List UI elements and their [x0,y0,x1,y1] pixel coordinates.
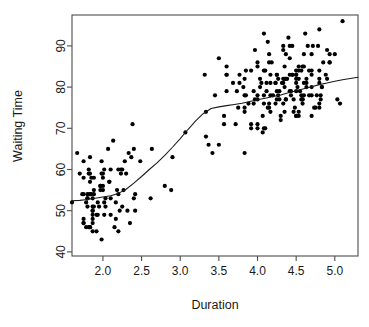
data-point [282,85,286,89]
data-point [102,213,106,217]
data-point [255,122,259,126]
data-point [333,52,337,56]
data-point [316,44,320,48]
data-point [91,217,95,221]
data-point [249,122,253,126]
data-point [276,77,280,81]
data-point [294,73,298,77]
data-point [295,85,299,89]
data-point [319,93,323,97]
data-point [235,89,239,93]
data-point [319,97,323,101]
data-point [169,188,173,192]
data-point [106,147,110,151]
data-point [255,64,259,68]
data-point [89,176,93,180]
data-point [91,213,95,217]
data-point [237,73,241,77]
x-tick-label: 4.5 [288,264,305,278]
data-point [264,81,268,85]
data-point [163,184,167,188]
data-point [127,151,131,155]
data-point [81,217,85,221]
data-point [317,69,321,73]
data-point [293,106,297,110]
data-point [317,101,321,105]
data-point [123,159,127,163]
data-point [100,237,104,241]
data-point [213,93,217,97]
data-point [281,81,285,85]
data-point [88,180,92,184]
data-point [132,196,136,200]
data-point [284,52,288,56]
data-point [243,151,247,155]
data-point [243,110,247,114]
data-point [267,52,271,56]
data-point [91,209,95,213]
data-point [297,64,301,68]
data-point [120,167,124,171]
y-tick-label: 50 [54,204,68,218]
data-point [259,81,263,85]
data-point [118,209,122,213]
data-point [273,101,277,105]
data-point [281,101,285,105]
data-point [302,81,306,85]
data-point [261,114,265,118]
data-point [281,44,285,48]
data-point [249,126,253,130]
data-point [252,89,256,93]
data-point [288,44,292,48]
data-point [111,139,115,143]
data-point [96,200,100,204]
scatter-plot-figure: 2.02.53.03.54.04.55.0 405060708090 Durat… [0,0,369,327]
data-point [338,101,342,105]
data-point [268,73,272,77]
data-point [96,213,100,217]
data-point [81,159,85,163]
data-point [128,221,132,225]
data-point [310,52,314,56]
data-point [264,89,268,93]
data-point [149,196,153,200]
data-point [297,110,301,114]
data-point [101,184,105,188]
data-point [279,114,283,118]
data-point [304,77,308,81]
data-point [263,69,267,73]
data-point [129,155,133,159]
data-point [100,172,104,176]
data-point [317,77,321,81]
data-point [275,73,279,77]
data-point [317,27,321,31]
data-point [114,200,118,204]
data-point [288,56,292,60]
data-point [282,64,286,68]
y-axis-title: Waiting Time [11,90,25,162]
data-point [222,122,226,126]
data-point [281,48,285,52]
x-tick-label: 5.0 [326,264,343,278]
data-point [340,19,344,23]
data-point [243,106,247,110]
data-point [290,73,294,77]
data-point [100,159,104,163]
data-point [300,97,304,101]
data-point [234,122,238,126]
data-point [307,93,311,97]
data-point [92,204,96,208]
data-point [297,77,301,81]
data-point [300,64,304,68]
data-point [138,159,142,163]
y-tick-label: 90 [54,39,68,53]
data-point [335,97,339,101]
data-point [261,130,265,134]
data-point [81,176,85,180]
data-point [75,151,79,155]
data-point [255,93,259,97]
data-point [109,167,113,171]
data-point [224,89,228,93]
data-point [84,200,88,204]
data-point [267,101,271,105]
